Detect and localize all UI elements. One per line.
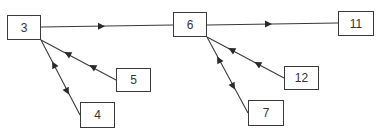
arrowhead-icon (214, 55, 223, 64)
node-label: 7 (263, 106, 270, 120)
node-12: 12 (284, 66, 319, 90)
node-label: 4 (94, 108, 101, 122)
arrowhead-icon (63, 49, 72, 58)
node-label: 5 (130, 73, 137, 87)
node-5: 5 (116, 68, 151, 92)
arrowhead-icon (49, 60, 58, 69)
node-label: 6 (187, 18, 194, 32)
arrowhead-right-icon (265, 21, 272, 28)
arrowhead-icon (228, 82, 237, 91)
arrowhead-right-icon (98, 23, 105, 30)
node-label: 11 (350, 17, 362, 31)
arrowhead-icon (63, 87, 72, 96)
edge-3-6 (41, 25, 173, 27)
node-6: 6 (173, 12, 207, 37)
arrowhead-icon (253, 59, 262, 68)
node-label: 3 (21, 21, 28, 35)
node-4: 4 (80, 102, 115, 128)
arrowhead-icon (88, 62, 97, 71)
node-3: 3 (7, 15, 41, 40)
edge-6-11 (207, 23, 338, 25)
node-11: 11 (338, 11, 374, 36)
edge-5-3 (41, 40, 116, 80)
arrowhead-icon (227, 45, 236, 54)
node-label: 12 (295, 71, 308, 85)
node-7: 7 (248, 100, 284, 126)
edge-4-3 (41, 40, 80, 115)
